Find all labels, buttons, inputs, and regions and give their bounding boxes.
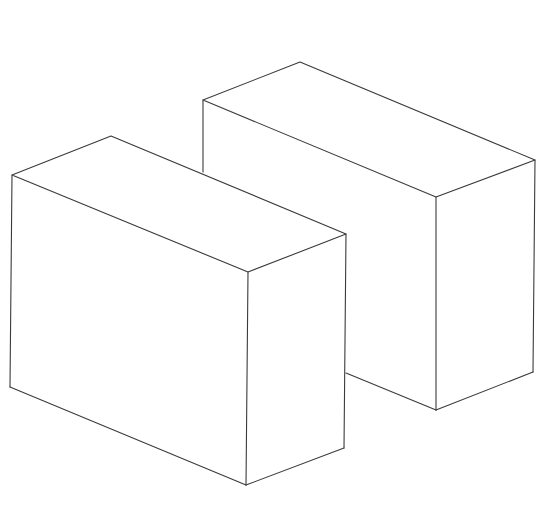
two-boxes-isometric-drawing: [0, 0, 546, 513]
back-box-side-face: [436, 160, 535, 410]
front-box-side-face: [246, 234, 346, 485]
